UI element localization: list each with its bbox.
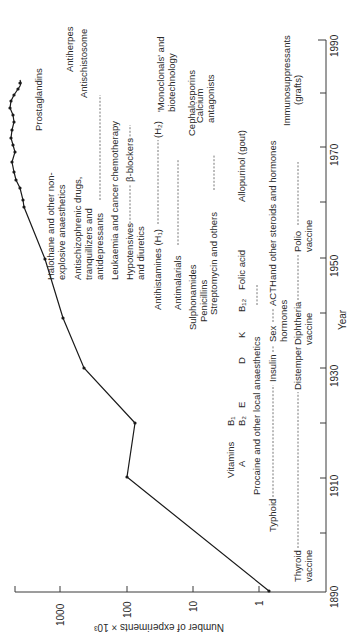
svg-text:B₁: B₁	[225, 416, 236, 426]
svg-text:vaccine: vaccine	[303, 313, 314, 345]
svg-text:Halothane and other non-: Halothane and other non-	[45, 172, 56, 280]
svg-text:explosive anaesthetics: explosive anaesthetics	[56, 184, 67, 280]
svg-text:D: D	[236, 357, 247, 364]
svg-text:Calcium: Calcium	[194, 89, 205, 123]
svg-text:Antihistamines (H₁): Antihistamines (H₁)	[152, 229, 163, 310]
svg-text:Procaine and other local anaes: Procaine and other local anaesthetics	[251, 336, 262, 495]
count-axis	[15, 586, 326, 592]
svg-text:Folic acid: Folic acid	[236, 250, 247, 290]
chart: 1890 1910 1930 1950 1970 1990 Year 1000 …	[0, 0, 354, 636]
svg-text:vaccine: vaccine	[303, 220, 314, 252]
svg-text:biotechnology: biotechnology	[166, 53, 177, 112]
svg-text:and diuretics: and diuretics	[135, 226, 146, 280]
svg-text:tranquillizers and: tranquillizers and	[83, 208, 94, 280]
experiments-series	[8, 80, 270, 593]
svg-text:Streptomycin and others: Streptomycin and others	[208, 212, 219, 315]
svg-text:Insulin: Insulin	[267, 355, 278, 382]
svg-text:Antiherpes: Antiherpes	[64, 26, 75, 72]
svg-text:Allopurinol (gout): Allopurinol (gout)	[236, 130, 247, 202]
svg-text:hormones: hormones	[278, 300, 289, 342]
svg-text:1970: 1970	[329, 143, 340, 166]
annotations: Prostaglandins Halothane and other non- …	[33, 26, 314, 582]
svg-text:E: E	[236, 402, 247, 408]
svg-text:Sulphonamides: Sulphonamides	[187, 264, 198, 330]
svg-text:B₁₂: B₁₂	[236, 298, 247, 312]
svg-text:K: K	[236, 331, 247, 338]
svg-text:A: A	[236, 460, 247, 467]
svg-text:(grafts): (grafts)	[292, 75, 303, 105]
svg-text:1990: 1990	[329, 34, 340, 57]
svg-text:Antischistosome: Antischistosome	[78, 29, 89, 98]
svg-text:'Monoclonals' and: 'Monoclonals' and	[155, 37, 166, 112]
svg-text:β-blockers: β-blockers	[124, 138, 135, 182]
year-axis-title: Year	[337, 309, 348, 330]
svg-text:antagonists: antagonists	[205, 74, 216, 123]
svg-text:B₂: B₂	[236, 416, 247, 426]
svg-text:1: 1	[254, 600, 265, 606]
svg-text:Typhoid: Typhoid	[267, 499, 278, 532]
svg-text:Antimalarials: Antimalarials	[172, 255, 183, 310]
svg-text:Prostaglandins: Prostaglandins	[33, 68, 44, 131]
svg-text:Thyroid: Thyroid	[292, 550, 303, 582]
svg-text:10: 10	[188, 600, 199, 612]
svg-text:1930: 1930	[329, 364, 340, 387]
svg-text:1950: 1950	[329, 254, 340, 277]
svg-text:Sex: Sex	[267, 325, 278, 342]
svg-text:1000: 1000	[55, 603, 66, 626]
svg-text:100: 100	[122, 601, 133, 618]
svg-text:Diphtheria: Diphtheria	[292, 301, 303, 345]
svg-text:Polio: Polio	[292, 231, 303, 252]
svg-text:Antischizophrenic drugs,: Antischizophrenic drugs,	[72, 177, 83, 281]
svg-text:1890: 1890	[329, 585, 340, 608]
count-axis-title-rotated: Number of experiments × 10³	[94, 622, 224, 633]
svg-text:ACTH: ACTH	[267, 280, 278, 306]
year-axis	[318, 40, 326, 592]
svg-text:Distemper: Distemper	[292, 347, 303, 390]
svg-text:(H₂): (H₂)	[152, 121, 163, 138]
svg-text:vaccine: vaccine	[303, 550, 314, 582]
svg-text:Immunosuppressants: Immunosuppressants	[281, 35, 292, 126]
svg-text:Leukaemia and cancer chemother: Leukaemia and cancer chemotherapy	[109, 121, 120, 280]
svg-text:1910: 1910	[329, 474, 340, 497]
svg-text:Vitamins: Vitamins	[225, 441, 236, 478]
svg-text:Hypotensives: Hypotensives	[124, 223, 135, 280]
svg-text:antidepressants: antidepressants	[94, 213, 105, 280]
svg-text:and other steroids and hormone: and other steroids and hormones	[267, 140, 278, 280]
